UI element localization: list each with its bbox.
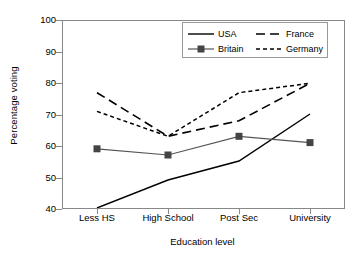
y-tick-label-40: 40 — [20, 204, 56, 214]
series-marker-britain — [307, 139, 314, 146]
legend-row-1: USA France — [187, 26, 323, 41]
legend-item-germany: Germany — [255, 44, 323, 54]
x-tick-label-post-sec: Post Sec — [220, 212, 258, 223]
y-tick-label-100: 100 — [20, 15, 56, 25]
legend-row-2: Britain Germany — [187, 41, 323, 56]
y-tick-label-80: 80 — [20, 78, 56, 88]
y-tick-label-60: 60 — [20, 141, 56, 151]
legend-swatch-britain-icon — [187, 44, 215, 54]
legend-swatch-germany-icon — [255, 44, 283, 54]
series-marker-britain — [236, 133, 243, 140]
legend-label-usa: USA — [218, 29, 237, 39]
y-tick-label-70: 70 — [20, 110, 56, 120]
legend-item-britain: Britain — [187, 44, 255, 54]
y-tick-mark-40 — [56, 209, 62, 210]
legend-label-germany: Germany — [286, 44, 323, 54]
legend-swatch-france-icon — [255, 29, 283, 39]
y-axis-title-text: Percentage voting — [8, 66, 19, 144]
legend-swatch-usa-icon — [187, 29, 215, 39]
series-line-france — [97, 83, 310, 136]
chart-figure: Percentage voting 100 90 80 70 60 50 40 — [0, 0, 352, 259]
legend-item-usa: USA — [187, 29, 255, 39]
chart-legend: USA France Britain — [182, 22, 328, 58]
x-axis-title: Education level — [60, 236, 345, 247]
legend-item-france: France — [255, 29, 323, 39]
series-line-britain — [97, 136, 310, 155]
series-marker-britain — [94, 145, 101, 152]
legend-label-france: France — [286, 29, 314, 39]
x-tick-label-less-hs: Less HS — [79, 212, 115, 223]
x-tick-label-high-school: High School — [142, 212, 193, 223]
legend-label-britain: Britain — [218, 44, 244, 54]
y-tick-label-90: 90 — [20, 47, 56, 57]
series-marker-britain — [165, 152, 172, 159]
x-tick-label-university: University — [289, 212, 331, 223]
y-tick-label-50: 50 — [20, 173, 56, 183]
